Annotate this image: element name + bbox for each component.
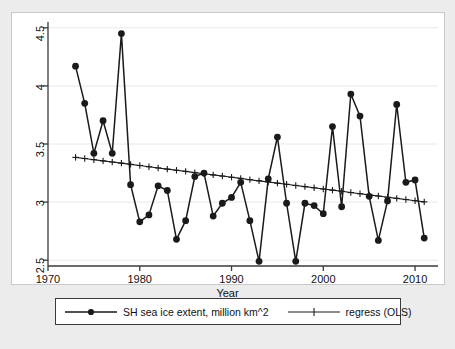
legend-label-regression: regress (OLS) [346,306,412,318]
data-point-sea-ice [164,187,171,194]
data-point-sea-ice [412,177,419,184]
chart-page: 2.533.544.5 19701980199020002010 Year SH… [0,0,455,349]
data-point-sea-ice [357,113,364,120]
data-point-sea-ice [109,150,116,157]
data-point-sea-ice [311,202,318,209]
x-axis-ticklabel: 2000 [298,273,348,285]
data-point-sea-ice [265,175,272,182]
x-axis-ticklabel: 1970 [23,273,73,285]
data-point-sea-ice [182,217,189,224]
legend-key-plus [287,306,341,318]
data-point-sea-ice [219,200,226,207]
data-point-sea-ice [100,117,107,124]
data-point-sea-ice [384,198,391,205]
x-axis-ticklabel: 1980 [115,273,165,285]
chart-legend: SH sea ice extent, million km^2 regress … [55,298,401,325]
data-point-sea-ice [81,100,88,107]
legend-item-series[interactable]: SH sea ice extent, million km^2 [64,306,269,318]
x-axis-ticklabel: 1990 [207,273,257,285]
data-point-sea-ice [402,179,409,186]
legend-label-series: SH sea ice extent, million km^2 [123,306,269,318]
data-point-sea-ice [191,173,198,180]
data-point-sea-ice [155,182,162,189]
data-point-sea-ice [283,200,290,207]
data-point-sea-ice [375,237,382,244]
data-point-sea-ice [302,200,309,207]
data-point-sea-ice [173,236,180,243]
y-axis-ticklabel: 3 [34,200,46,234]
data-point-sea-ice [136,218,143,225]
data-point-sea-ice [347,91,354,98]
data-point-sea-ice [292,258,299,265]
data-point-sea-ice [366,193,373,200]
legend-item-regression[interactable]: regress (OLS) [287,306,412,318]
data-point-sea-ice [118,30,125,37]
y-axis-ticklabel: 4 [34,84,46,118]
data-point-sea-ice [246,217,253,224]
legend-key-filled-circle [64,306,118,318]
data-point-sea-ice [421,235,428,242]
data-point-sea-ice [228,194,235,201]
data-point-sea-ice [274,134,281,141]
data-point-sea-ice [127,181,134,188]
data-point-sea-ice [72,63,79,70]
data-point-sea-ice [90,150,97,157]
data-point-sea-ice [329,123,336,130]
data-point-sea-ice [256,258,263,265]
data-point-sea-ice [201,170,208,177]
x-axis-ticklabel: 2010 [390,273,440,285]
data-point-sea-ice [237,179,244,186]
y-axis-ticklabel: 3.5 [34,142,46,176]
data-point-sea-ice [146,211,153,218]
y-axis-ticklabel: 4.5 [34,26,46,60]
data-point-sea-ice [393,101,400,108]
data-point-sea-ice [338,203,345,210]
data-point-sea-ice [320,210,327,217]
data-point-sea-ice [210,213,217,220]
